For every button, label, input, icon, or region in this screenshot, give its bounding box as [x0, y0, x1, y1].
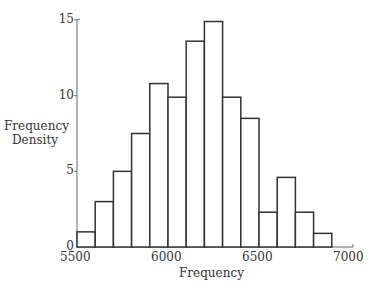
histogram-bar	[132, 134, 150, 248]
x-tick-label: 6500	[242, 250, 273, 264]
y-tick-label: 15	[59, 12, 74, 26]
histogram-bar	[223, 97, 241, 247]
x-tick-label: 7000	[333, 250, 364, 264]
histogram-bar	[113, 171, 131, 247]
x-axis-label: Frequency	[179, 266, 244, 280]
y-axis-label: Frequency Density	[4, 119, 66, 147]
y-axis-label-line2: Density	[4, 133, 66, 147]
histogram-plot	[0, 0, 378, 294]
histogram-bar	[95, 202, 113, 247]
histogram-bar	[168, 97, 186, 247]
y-axis-label-line1: Frequency	[4, 119, 66, 133]
histogram-bar	[204, 22, 222, 247]
histogram-bar	[77, 232, 95, 247]
x-tick-label: 6000	[151, 250, 182, 264]
histogram-bar	[150, 84, 168, 247]
histogram-bar	[259, 212, 277, 247]
histogram-bar	[186, 41, 204, 247]
x-tick-label: 5500	[60, 250, 91, 264]
histogram-bar	[295, 212, 313, 247]
histogram-bar	[314, 233, 332, 247]
histogram-bar	[277, 177, 295, 247]
y-tick-label: 10	[59, 88, 74, 102]
histogram-bar	[241, 118, 259, 247]
y-tick-label: 5	[66, 163, 74, 177]
